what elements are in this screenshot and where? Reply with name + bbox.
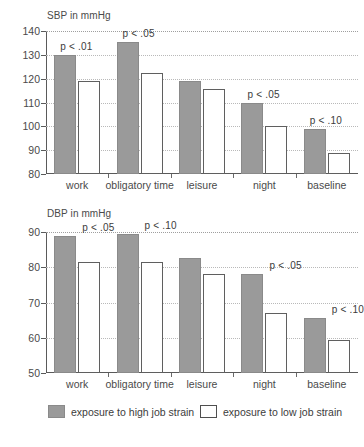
bar-high-strain: [179, 258, 201, 373]
x-axis-tick: [296, 174, 297, 178]
bar-high-strain: [54, 55, 76, 174]
sbp-plot-area: p < .01p < .05p < .05p < .10: [46, 31, 358, 174]
dbp-y-axis-labels: 5060708090: [10, 232, 40, 373]
dbp-chart-title: DBP in mmHg: [47, 208, 111, 219]
x-axis-category-label: work: [66, 179, 88, 191]
x-axis-tick: [233, 373, 234, 377]
y-axis-tick: [41, 338, 46, 339]
y-axis-tick: [41, 174, 46, 175]
bar-low-strain: [78, 262, 100, 373]
x-axis-category-label: baseline: [307, 179, 346, 191]
x-axis-category-label: night: [253, 378, 276, 390]
y-axis-tick-label: 90: [28, 144, 40, 156]
x-axis-category-label: night: [253, 179, 276, 191]
y-axis-tick: [41, 303, 46, 304]
bar-low-strain: [141, 73, 163, 174]
x-axis-category-label: leisure: [187, 179, 218, 191]
y-axis-tick: [41, 232, 46, 233]
gridline: [46, 79, 358, 80]
legend-swatch-low-icon: [200, 405, 217, 418]
p-value-annotation: p < .01: [60, 41, 92, 52]
y-axis-tick: [41, 267, 46, 268]
legend-item-low-strain: exposure to low job strain: [200, 405, 342, 418]
legend-swatch-high-icon: [48, 405, 65, 418]
y-axis-tick-label: 130: [22, 49, 40, 61]
y-axis-tick-label: 120: [22, 73, 40, 85]
sbp-y-axis-labels: 8090100110120130140: [10, 31, 40, 174]
dbp-plot-area: p < .05p < .10p < .05p < .10: [46, 232, 358, 373]
y-axis-tick: [41, 79, 46, 80]
y-axis-tick-label: 50: [28, 367, 40, 379]
x-axis-tick: [171, 373, 172, 377]
y-axis-tick-label: 80: [28, 261, 40, 273]
y-axis-tick: [41, 126, 46, 127]
legend-label-low: exposure to low job strain: [223, 406, 342, 418]
dbp-x-axis-labels: workobligatory timeleisurenightbaseline: [46, 378, 358, 392]
bar-high-strain: [117, 42, 139, 174]
y-axis-tick-label: 100: [22, 120, 40, 132]
bar-low-strain: [265, 313, 287, 373]
gridline: [46, 31, 358, 32]
dbp-chart-panel: DBP in mmHg 5060708090 p < .05p < .10p <…: [0, 205, 364, 405]
sbp-chart-panel: SBP in mmHg 8090100110120130140 p < .01p…: [0, 0, 364, 205]
x-axis-tick: [296, 373, 297, 377]
y-axis-tick-label: 70: [28, 297, 40, 309]
y-axis-tick: [41, 103, 46, 104]
p-value-annotation: p < .05: [247, 89, 279, 100]
x-axis-category-label: work: [66, 378, 88, 390]
p-value-annotation: p < .10: [332, 304, 364, 315]
bar-high-strain: [117, 234, 139, 373]
bar-low-strain: [265, 126, 287, 174]
y-axis-tick: [41, 55, 46, 56]
chart-legend: exposure to high job strain exposure to …: [0, 405, 364, 429]
bar-low-strain: [203, 274, 225, 373]
sbp-x-axis-labels: workobligatory timeleisurenightbaseline: [46, 179, 358, 193]
bar-high-strain: [54, 236, 76, 373]
y-axis-tick-label: 110: [23, 97, 40, 109]
p-value-annotation: p < .10: [145, 220, 177, 231]
x-axis-category-label: leisure: [187, 378, 218, 390]
x-axis-category-label: obligatory time: [105, 179, 173, 191]
sbp-chart-title: SBP in mmHg: [47, 10, 111, 21]
bar-low-strain: [328, 340, 350, 373]
x-axis-tick: [233, 174, 234, 178]
y-axis-tick: [41, 31, 46, 32]
bar-high-strain: [179, 81, 201, 174]
p-value-annotation: p < .10: [310, 115, 342, 126]
y-axis-tick-label: 60: [28, 332, 40, 344]
bar-low-strain: [328, 153, 350, 174]
x-axis-tick: [108, 373, 109, 377]
x-axis-tick: [108, 174, 109, 178]
legend-item-high-strain: exposure to high job strain: [48, 405, 194, 418]
x-axis-category-label: obligatory time: [105, 378, 173, 390]
bar-high-strain: [304, 129, 326, 174]
bar-low-strain: [141, 262, 163, 373]
bar-low-strain: [203, 89, 225, 174]
y-axis-tick: [41, 373, 46, 374]
bar-high-strain: [304, 318, 326, 373]
p-value-annotation: p < .05: [269, 260, 301, 271]
x-axis-tick: [171, 174, 172, 178]
bar-high-strain: [241, 274, 263, 373]
x-axis-category-label: baseline: [307, 378, 346, 390]
y-axis-tick: [41, 150, 46, 151]
gridline: [46, 55, 358, 56]
bar-high-strain: [241, 103, 263, 175]
bar-low-strain: [78, 81, 100, 174]
legend-label-high: exposure to high job strain: [71, 406, 194, 418]
y-axis-tick-label: 80: [28, 168, 40, 180]
y-axis-tick-label: 140: [22, 25, 40, 37]
p-value-annotation: p < .05: [123, 28, 155, 39]
p-value-annotation: p < .05: [82, 222, 114, 233]
y-axis-tick-label: 90: [28, 226, 40, 238]
